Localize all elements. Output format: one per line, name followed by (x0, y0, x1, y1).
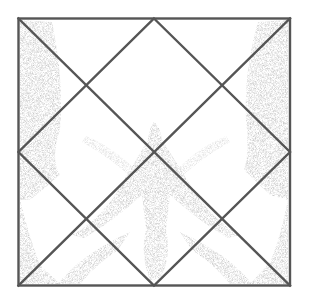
geometric-diagram (0, 0, 311, 308)
shade-bottom-right-wing (180, 232, 252, 284)
shade-lower-left (20, 200, 60, 284)
shade-streak-right (166, 136, 230, 186)
shade-right-band (244, 20, 288, 200)
shade-bottom-left-wing (58, 232, 130, 284)
shade-lower-right (250, 200, 288, 284)
